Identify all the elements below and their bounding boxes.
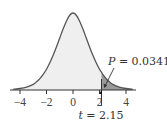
- x-tick-label: 0: [70, 96, 76, 108]
- p-value-tail-shading: [101, 72, 132, 90]
- x-tick-label: 4: [123, 96, 129, 108]
- x-tick-label: −4: [14, 96, 26, 108]
- t-value-label: t = 2.15: [78, 109, 123, 122]
- curve-area-fill: [13, 13, 132, 90]
- t-distribution-chart: −4−2024 P = 0.0341 t = 2.15: [0, 0, 167, 128]
- x-axis-ticks: −4−2024: [14, 90, 129, 108]
- x-tick-label: −2: [40, 96, 52, 108]
- p-value-label: P = 0.0341: [107, 55, 167, 68]
